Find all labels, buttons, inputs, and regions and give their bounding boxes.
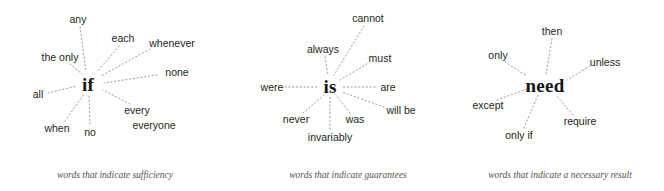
node-no: no [84, 127, 96, 138]
caption-guarantees: words that indicate guarantees [289, 171, 407, 181]
spoke-lines-guarantees [230, 0, 450, 191]
node-were: were [261, 82, 284, 93]
node-when: when [44, 123, 69, 134]
node-the-only: the only [42, 52, 79, 63]
node-require: require [564, 116, 597, 127]
node-must: must [369, 53, 392, 64]
node-except: except [473, 100, 504, 111]
spoke-line [567, 66, 590, 80]
node-cannot: cannot [352, 13, 384, 24]
spoke-line [340, 64, 367, 80]
word-cluster-figure: if any each whenever the only none all e… [0, 0, 664, 191]
node-will-be: will be [386, 105, 415, 116]
cluster-necessary-result: need then only unless except require onl… [450, 0, 664, 191]
spoke-line [546, 39, 552, 74]
spoke-line [104, 75, 157, 83]
node-any: any [70, 14, 87, 25]
node-always: always [307, 44, 339, 55]
spoke-line [80, 27, 86, 72]
spoke-line [48, 86, 77, 93]
spoke-line [97, 46, 119, 72]
spoke-line [65, 94, 84, 121]
node-everyone: everyone [132, 120, 175, 131]
spoke-line [505, 62, 527, 76]
spoke-line [336, 95, 350, 113]
cluster-hub-if: if [82, 75, 94, 94]
node-are: are [380, 82, 395, 93]
spoke-line [342, 92, 384, 107]
caption-sufficiency: words that indicate sufficiency [57, 171, 173, 181]
spoke-line [70, 64, 82, 74]
cluster-hub-is: is [323, 77, 336, 96]
spoke-line [303, 95, 324, 113]
cluster-hub-need: need [526, 76, 565, 95]
spoke-line [101, 49, 150, 76]
spoke-line [325, 57, 328, 75]
node-was: was [346, 114, 365, 125]
cluster-guarantees: is cannot always must were are will be n… [230, 0, 450, 191]
node-all: all [33, 89, 44, 100]
node-unless: unless [590, 57, 620, 68]
caption-necessary-result: words that indicate a necessary result [488, 171, 632, 181]
spoke-line [524, 95, 538, 128]
node-none: none [165, 67, 188, 78]
node-invariably: invariably [308, 132, 352, 143]
spoke-line [103, 90, 130, 104]
node-then: then [542, 26, 562, 37]
spoke-line [89, 95, 90, 124]
node-each: each [112, 33, 135, 44]
node-only: only [488, 50, 507, 61]
spoke-line [556, 95, 573, 115]
node-only-if: only if [505, 130, 532, 141]
cluster-sufficiency: if any each whenever the only none all e… [0, 0, 230, 191]
node-whenever: whenever [149, 38, 195, 49]
node-every: every [124, 105, 150, 116]
node-never: never [283, 114, 309, 125]
